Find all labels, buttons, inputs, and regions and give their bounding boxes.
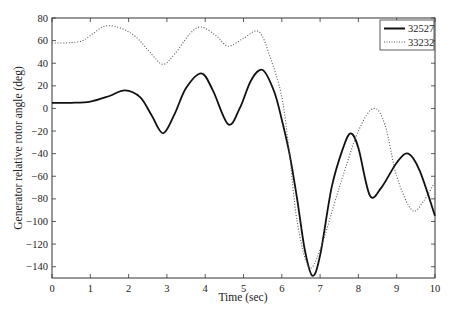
chart: 806040200−20−40−60−80−100−120−140 012345… [0,0,458,316]
y-tick-label: −80 [32,193,48,204]
x-tick-label: 6 [279,283,284,294]
legend-label-2: 33232 [408,37,434,48]
y-tick-label: −60 [32,171,48,182]
x-tick-label: 8 [356,283,361,294]
y-tick-label: −120 [26,239,48,250]
x-tick-label: 3 [164,283,169,294]
legend: 32527 33232 [380,20,434,50]
y-tick-label: 80 [38,13,49,24]
x-tick-label: 4 [203,283,209,294]
x-tick-label: 9 [394,283,399,294]
x-tick-label: 1 [88,283,93,294]
legend-label-1: 32527 [408,23,434,34]
y-tick-label: −100 [26,216,48,227]
y-tick-label: −40 [32,148,48,159]
x-axis-label: Time (sec) [218,291,267,304]
x-tick-label: 0 [49,283,54,294]
y-tick-label: 20 [38,80,49,91]
y-tick-label: 0 [43,103,48,114]
y-tick-label: −140 [26,261,48,272]
y-tick-label: 40 [38,58,49,69]
y-tick-label: −20 [32,126,48,137]
x-tick-label: 2 [126,283,131,294]
x-tick-label: 10 [430,283,441,294]
x-tick-label: 7 [317,283,322,294]
y-axis-label: Generator relative rotor angle (deg) [12,66,25,230]
plot-frame [52,18,435,278]
y-tick-label: 60 [38,35,49,46]
